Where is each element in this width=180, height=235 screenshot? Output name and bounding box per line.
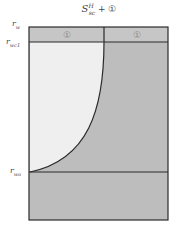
header-cell-2: ① — [105, 28, 168, 42]
header-cell-1: ① — [30, 28, 104, 42]
